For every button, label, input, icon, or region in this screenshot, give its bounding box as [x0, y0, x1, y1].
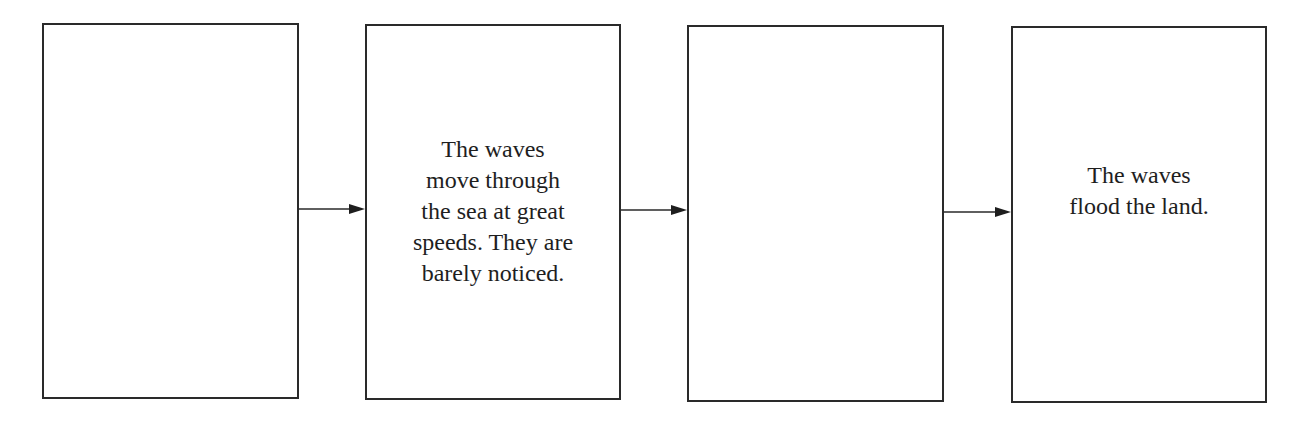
flow-box-2: The waves move through the sea at great …: [365, 24, 621, 400]
flow-box-3-empty: [687, 25, 944, 402]
flow-box-1-empty: [42, 23, 299, 399]
arrow-right-icon: [944, 206, 1011, 218]
arrow-right-icon: [621, 204, 687, 216]
flow-box-2-text: The waves move through the sea at great …: [399, 134, 587, 289]
flow-box-4-text: The waves flood the land.: [1055, 160, 1222, 222]
arrow-right-icon: [299, 203, 365, 215]
flow-box-4: The waves flood the land.: [1011, 26, 1267, 403]
